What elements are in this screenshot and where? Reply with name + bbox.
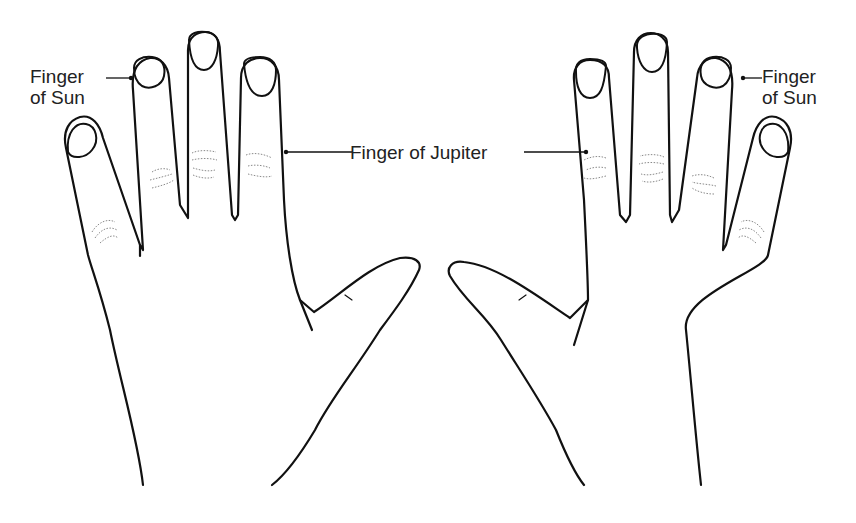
left-pinky-nail bbox=[68, 124, 97, 157]
leader-sun-left-dot bbox=[129, 76, 133, 80]
right-hand bbox=[449, 33, 791, 485]
label-line-1: Finger bbox=[762, 66, 817, 87]
label-finger-of-sun-left: Finger of Sun bbox=[30, 66, 85, 108]
right-hand-outline bbox=[449, 33, 791, 485]
right-thumb-knuckle bbox=[519, 295, 526, 300]
hands-diagram bbox=[0, 0, 856, 523]
label-finger-of-sun-right: Finger of Sun bbox=[762, 66, 817, 108]
label-line-2: of Sun bbox=[762, 87, 817, 108]
left-thumb-knuckle bbox=[345, 295, 352, 300]
label-finger-of-jupiter: Finger of Jupiter bbox=[350, 142, 487, 163]
leader-jupiter-left-dot bbox=[284, 150, 288, 154]
right-index-nail bbox=[576, 59, 606, 98]
left-hand bbox=[65, 32, 420, 485]
right-pinky-nail bbox=[760, 124, 789, 157]
left-knuckle-creases bbox=[92, 151, 272, 243]
label-line-2: of Sun bbox=[30, 87, 85, 108]
right-middle-nail bbox=[637, 34, 667, 72]
leader-sun-right-dot bbox=[741, 76, 745, 80]
left-hand-outline bbox=[65, 32, 420, 485]
leader-jupiter-right-dot bbox=[584, 150, 588, 154]
label-line-1: Finger bbox=[30, 66, 85, 87]
